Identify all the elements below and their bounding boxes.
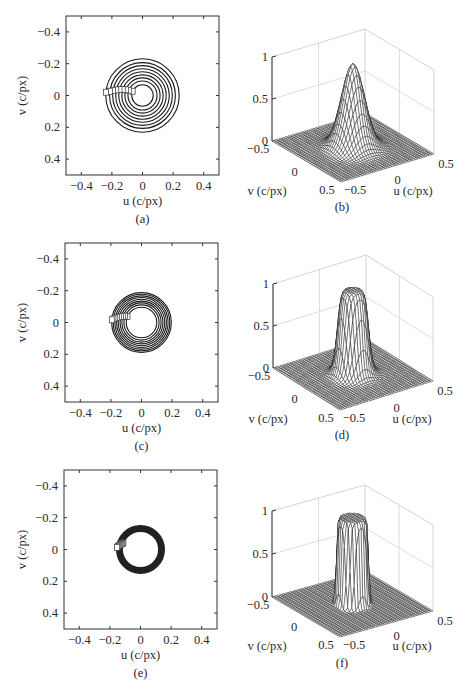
x-tick-label: 0.2: [165, 179, 181, 193]
z-tick: [272, 510, 276, 511]
contour-line: [106, 59, 179, 132]
x-axis-label: u (c/px): [123, 194, 162, 208]
y-tick-label: 0.4: [43, 379, 59, 393]
panel-f-surface-plot: 00.51−0.500.5−0.500.5v (c/px)u (c/px)(f): [247, 485, 453, 670]
x-tick-label: −0.2: [99, 633, 122, 647]
u-tick-label: 0.5: [437, 614, 453, 628]
y-tick-label: 0.4: [44, 152, 60, 166]
contour-line: [125, 78, 160, 113]
x-tick-label: 0: [139, 179, 145, 193]
panel-c-contour-plot: −0.4−0.4−0.2−0.2000.20.20.40.4u (c/px)v …: [15, 243, 218, 453]
panel-caption: (c): [135, 439, 149, 453]
v-tick-label: 0: [291, 620, 297, 634]
panel-caption: (e): [134, 666, 148, 680]
x-tick-label: −0.4: [69, 406, 92, 420]
contour-line: [122, 303, 161, 342]
x-tick-label: 0.4: [195, 406, 211, 420]
contour-labels: [114, 540, 126, 551]
y-tick-label: −0.4: [37, 25, 60, 39]
contour-line: [124, 305, 159, 340]
v-tick-label: −0.5: [248, 369, 271, 383]
v-tick-label: 0.5: [318, 638, 334, 652]
z-tick: [272, 56, 276, 57]
x-tick-label: 0.2: [164, 406, 180, 420]
v-tick-label: 0.5: [318, 411, 334, 425]
z-tick-label: 0.5: [252, 92, 268, 106]
contour-line: [126, 307, 157, 338]
x-tick-label: 0.4: [196, 179, 212, 193]
x-tick-label: −0.2: [100, 406, 123, 420]
u-tick-label: 0.5: [438, 157, 454, 171]
panel-caption: (f): [336, 656, 349, 670]
x-axis-label: u (c/px): [121, 648, 160, 662]
panel-a-contour-plot: −0.4−0.4−0.2−0.2000.20.20.40.4u (c/px)v …: [15, 16, 219, 226]
panel-d-surface-plot: 00.51−0.500.5−0.500.5v (c/px)u (c/px)(d): [248, 255, 453, 442]
u-axis-label: u (c/px): [392, 639, 431, 653]
contour-line: [120, 529, 161, 570]
contour-line: [117, 526, 164, 573]
u-axis-label: u (c/px): [392, 412, 431, 426]
panel-b-surface-plot: 00.51−0.500.5−0.500.5v (c/px)u (c/px)(b): [247, 29, 454, 214]
y-axis-label: v (c/px): [15, 530, 29, 569]
z-tick: [272, 98, 276, 99]
axes-box: [65, 243, 218, 402]
y-axis-label: v (c/px): [15, 303, 29, 342]
panel-caption: (b): [335, 200, 350, 214]
v-axis-label: v (c/px): [248, 412, 287, 426]
z-tick: [273, 283, 277, 284]
z-tick-label: 0.5: [253, 319, 269, 333]
v-axis-label: v (c/px): [247, 639, 286, 653]
v-tick-label: 0: [291, 165, 297, 179]
contour-line: [121, 530, 159, 568]
v-tick-label: 0.5: [319, 183, 335, 197]
contour-line: [116, 69, 170, 123]
contour-level-label: [114, 544, 119, 550]
z-tick: [272, 553, 276, 554]
y-tick-label: −0.2: [35, 511, 58, 525]
contour-level-label: [109, 317, 114, 323]
y-tick-label: −0.4: [36, 252, 59, 266]
u-tick-label: 0.5: [437, 384, 453, 398]
v-tick-label: −0.5: [247, 598, 270, 612]
contour-line: [118, 527, 162, 571]
u-tick-label: −0.5: [344, 183, 367, 197]
u-tick-label: −0.5: [343, 411, 366, 425]
y-tick-label: −0.4: [35, 479, 58, 493]
x-tick-label: −0.4: [68, 633, 91, 647]
contour-line: [119, 72, 166, 119]
u-tick-label: −0.5: [343, 638, 366, 652]
u-axis-label: u (c/px): [393, 184, 432, 198]
panel-e-contour-plot: −0.4−0.4−0.2−0.2000.20.20.40.4u (c/px)v …: [15, 470, 217, 680]
x-tick-label: 0: [137, 633, 143, 647]
z-tick-label: 1: [262, 50, 268, 64]
x-tick-label: −0.2: [101, 179, 124, 193]
z-tick-label: 1: [262, 504, 268, 518]
v-tick-label: −0.5: [247, 142, 270, 156]
contour-line: [118, 527, 164, 573]
surface-mesh: [272, 513, 433, 637]
v-axis-label: v (c/px): [247, 184, 286, 198]
contour-line: [115, 296, 168, 349]
figure: −0.4−0.4−0.2−0.2000.20.20.40.4u (c/px)v …: [0, 0, 472, 693]
contour-line: [122, 531, 159, 568]
x-tick-label: 0.4: [194, 633, 210, 647]
x-tick-label: 0.2: [163, 633, 179, 647]
panel-caption: (a): [136, 212, 150, 226]
z-tick: [273, 325, 277, 326]
y-tick-label: 0: [53, 316, 59, 330]
contour-line: [119, 528, 162, 571]
x-tick-label: −0.4: [70, 179, 93, 193]
axes-box: [66, 16, 219, 175]
y-tick-label: −0.2: [37, 57, 60, 71]
z-tick-label: 1: [263, 277, 269, 291]
v-tick-label: 0: [291, 392, 297, 406]
z-tick-label: 0.5: [252, 547, 268, 561]
panel-caption: (d): [335, 428, 350, 442]
contour-line: [118, 299, 165, 346]
y-tick-label: −0.2: [36, 284, 59, 298]
axes-box: [64, 470, 217, 629]
y-tick-label: 0.4: [42, 606, 58, 620]
y-tick-label: 0.2: [42, 574, 58, 588]
y-tick-label: 0.2: [43, 347, 59, 361]
contour-level-label: [103, 89, 108, 95]
